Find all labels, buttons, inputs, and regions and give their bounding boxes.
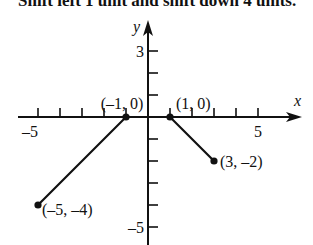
point-label: (3, –2) xyxy=(220,153,263,171)
point-label: (–1, 0) xyxy=(101,95,144,113)
data-point xyxy=(34,201,41,208)
y-axis-label: y xyxy=(131,18,141,36)
graph-line xyxy=(38,117,214,205)
x-tick-label: 5 xyxy=(254,123,262,140)
point-label: (–5, –4) xyxy=(42,201,93,219)
x-axis-label: x xyxy=(293,92,301,109)
data-point xyxy=(166,113,173,120)
point-label: (1, 0) xyxy=(176,95,211,113)
data-point xyxy=(210,157,217,164)
graph: –553–5xy(–5, –4)(–1, 0)(1, 0)(3, –2) xyxy=(0,0,313,245)
y-tick-label: 3 xyxy=(136,43,144,60)
y-tick-label: –5 xyxy=(127,219,144,236)
x-tick-label: –5 xyxy=(21,123,38,140)
data-point xyxy=(122,113,129,120)
